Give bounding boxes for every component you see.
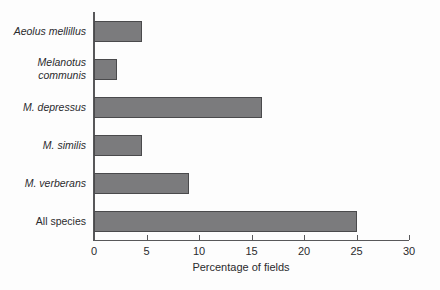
category-label: M. similis: [43, 139, 86, 152]
bar-row: M. similis: [94, 135, 142, 156]
bar-row: Aeolus mellillus: [94, 21, 142, 42]
bar-row: M. depressus: [94, 97, 262, 118]
x-axis-tick-label: 5: [143, 245, 149, 257]
bar-row: M. verberans: [94, 173, 189, 194]
category-label: M. verberans: [25, 177, 86, 190]
x-axis-tick: [199, 235, 200, 240]
x-axis-tick-label: 30: [403, 245, 415, 257]
category-label: Melanotuscommunis: [38, 56, 86, 82]
bar: [94, 59, 117, 80]
bar-row: Melanotuscommunis: [94, 59, 117, 80]
x-axis-tick: [252, 235, 253, 240]
x-axis-tick-label: 20: [298, 245, 310, 257]
x-axis-tick: [357, 235, 358, 240]
plot-area: [94, 12, 409, 240]
x-axis-tick: [304, 235, 305, 240]
x-axis-tick-label: 15: [245, 245, 257, 257]
bar: [94, 135, 142, 156]
x-axis-tick: [147, 235, 148, 240]
x-axis-title-text: Percentage of fields: [192, 261, 289, 273]
bar: [94, 97, 262, 118]
bar: [94, 21, 142, 42]
category-label: M. depressus: [23, 101, 86, 114]
x-axis-tick: [409, 235, 410, 240]
bar-chart-figure: Aeolus mellillusMelanotuscommunisM. depr…: [0, 0, 440, 290]
x-axis-tick-label: 0: [91, 245, 97, 257]
x-axis-title: Percentage of fields: [0, 261, 440, 273]
x-axis-tick-label: 10: [193, 245, 205, 257]
bar-row: All species: [94, 211, 357, 232]
bar: [94, 173, 189, 194]
bar: [94, 211, 357, 232]
category-label: All species: [36, 215, 86, 228]
category-label: Aeolus mellillus: [14, 25, 86, 38]
x-axis-tick-label: 25: [350, 245, 362, 257]
